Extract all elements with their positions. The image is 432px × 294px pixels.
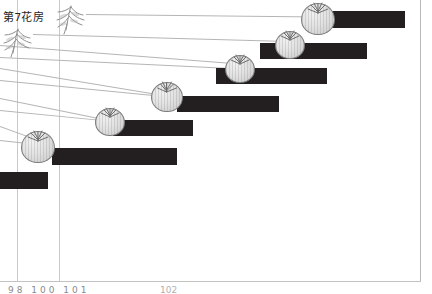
connector-line — [86, 14, 318, 17]
tomato-fruit-icon — [21, 131, 55, 163]
chart-right-border — [420, 0, 421, 282]
tomato-fruit-icon — [225, 55, 255, 83]
flower-truss-icon — [55, 2, 87, 36]
axis-tick-labels-right: 102 — [160, 285, 177, 294]
gridline-vertical-2 — [59, 0, 60, 282]
tomato-calyx-icon — [155, 81, 180, 93]
tomato-calyx-icon — [98, 107, 122, 118]
chart-baseline — [0, 281, 421, 282]
tomato-fruit-icon — [95, 108, 125, 136]
tomato-fruit-icon — [301, 3, 335, 35]
chart-bar[interactable] — [177, 96, 279, 112]
connector-line — [0, 57, 242, 69]
page-title: 第7花房 — [3, 11, 44, 24]
tomato-calyx-icon — [305, 2, 331, 14]
tomato-calyx-icon — [278, 30, 302, 41]
tomato-fruit-icon — [275, 31, 305, 59]
axis-tick-labels-left: 98 100 101 — [8, 285, 90, 294]
tomato-calyx-icon — [25, 130, 51, 142]
tomato-calyx-icon — [228, 54, 252, 65]
flower-truss-icon — [3, 26, 34, 58]
chart-bar[interactable] — [52, 148, 177, 165]
connector-line — [0, 45, 239, 64]
chart-canvas: 第7花房 — [0, 0, 432, 294]
chart-bar[interactable] — [113, 120, 193, 136]
tomato-fruit-icon — [151, 82, 183, 112]
chart-bar[interactable] — [0, 172, 48, 189]
